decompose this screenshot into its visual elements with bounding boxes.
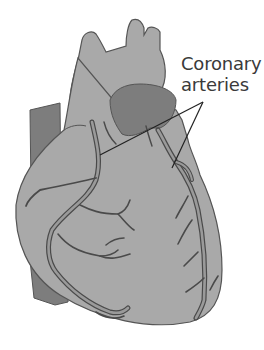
heart-diagram: Coronary arteries [0, 0, 264, 350]
coronary-arteries-label: Coronary arteries [181, 53, 262, 95]
label-line-2: arteries [181, 74, 262, 95]
label-line-1: Coronary [181, 53, 262, 74]
